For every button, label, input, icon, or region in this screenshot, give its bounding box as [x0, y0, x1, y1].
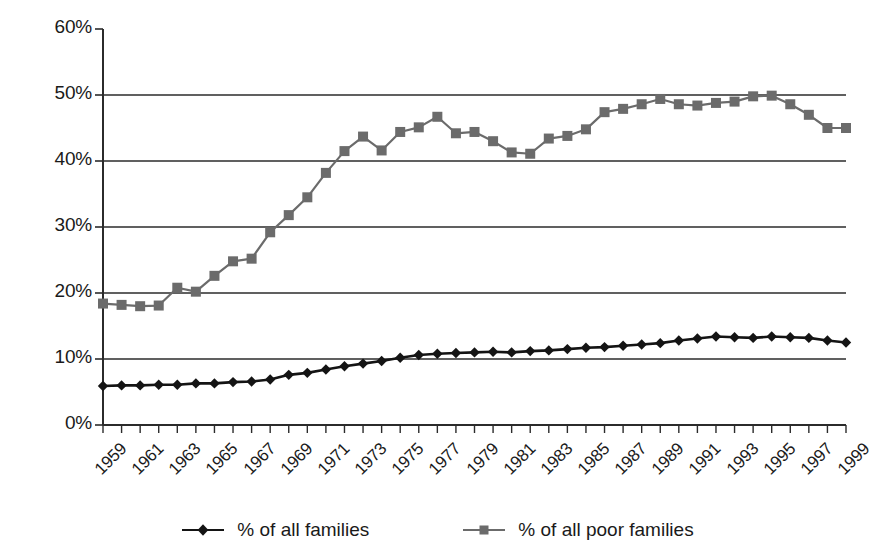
data-point-diamond: [785, 332, 795, 342]
data-point-diamond: [841, 337, 851, 347]
data-point-diamond: [339, 361, 349, 371]
data-point-diamond: [358, 358, 368, 368]
data-point-diamond: [711, 331, 721, 341]
data-point-square: [562, 131, 572, 141]
data-point-square: [172, 283, 182, 293]
data-point-diamond: [729, 332, 739, 342]
data-point-square: [451, 128, 461, 138]
data-point-square: [98, 299, 108, 309]
data-point-diamond: [544, 345, 554, 355]
data-point-diamond: [246, 376, 256, 386]
data-point-square: [470, 127, 480, 137]
data-point-square: [618, 104, 628, 114]
y-axis-tick-label: 10%: [14, 346, 92, 368]
data-point-diamond: [767, 331, 777, 341]
data-point-square: [414, 122, 424, 132]
data-point-diamond: [525, 346, 535, 356]
data-point-diamond: [284, 370, 294, 380]
line-chart: [0, 0, 874, 505]
data-point-diamond: [636, 339, 646, 349]
data-point-square: [488, 136, 498, 146]
data-point-square: [507, 147, 517, 157]
data-point-square: [302, 192, 312, 202]
data-point-square: [209, 271, 219, 281]
data-point-square: [544, 134, 554, 144]
data-point-square: [692, 101, 702, 111]
data-point-square: [785, 99, 795, 109]
y-axis-tick-label: 30%: [14, 214, 92, 236]
data-point-diamond: [265, 374, 275, 384]
data-point-square: [822, 123, 832, 133]
data-point-diamond: [822, 335, 832, 345]
data-point-diamond: [451, 348, 461, 358]
data-point-diamond: [748, 333, 758, 343]
data-point-diamond: [674, 335, 684, 345]
data-point-square: [674, 99, 684, 109]
data-point-diamond: [581, 343, 591, 353]
data-point-diamond: [599, 342, 609, 352]
y-axis-tick-label: 50%: [14, 82, 92, 104]
data-point-square: [581, 124, 591, 134]
data-point-diamond: [172, 380, 182, 390]
data-point-square: [339, 146, 349, 156]
data-point-square: [117, 300, 127, 310]
data-point-diamond: [321, 364, 331, 374]
y-axis-tick-label: 20%: [14, 280, 92, 302]
series-all-poor-families: [98, 91, 851, 312]
data-point-diamond: [116, 380, 126, 390]
data-point-square: [321, 168, 331, 178]
data-point-square: [600, 107, 610, 117]
data-point-square: [191, 287, 201, 297]
data-point-diamond: [209, 378, 219, 388]
data-point-square: [358, 132, 368, 142]
data-point-diamond: [488, 347, 498, 357]
data-point-square: [395, 127, 405, 137]
y-axis-tick-label: 60%: [14, 16, 92, 38]
y-axis-tick-label: 40%: [14, 148, 92, 170]
data-point-diamond: [804, 333, 814, 343]
data-point-diamond: [562, 344, 572, 354]
data-point-diamond: [395, 352, 405, 362]
data-point-diamond: [302, 368, 312, 378]
data-point-square: [637, 99, 647, 109]
y-axis-tick-label: 0%: [14, 412, 92, 434]
data-point-square: [228, 256, 238, 266]
data-point-diamond: [432, 349, 442, 359]
data-point-diamond: [692, 333, 702, 343]
data-point-square: [804, 110, 814, 120]
data-point-diamond: [135, 380, 145, 390]
data-point-square: [135, 301, 145, 311]
data-point-square: [377, 145, 387, 155]
data-point-square: [284, 210, 294, 220]
data-point-diamond: [506, 347, 516, 357]
data-point-square: [711, 98, 721, 108]
data-point-square: [730, 97, 740, 107]
data-point-diamond: [98, 381, 108, 391]
data-point-diamond: [655, 338, 665, 348]
data-point-diamond: [376, 356, 386, 366]
data-point-diamond: [618, 341, 628, 351]
data-point-square: [767, 91, 777, 101]
data-point-square: [841, 123, 851, 133]
data-point-square: [655, 94, 665, 104]
data-point-square: [432, 112, 442, 122]
series-all-families: [98, 331, 851, 391]
data-point-square: [265, 227, 275, 237]
chart-container: % of all families % of all poor families…: [0, 0, 874, 557]
data-point-square: [247, 254, 257, 264]
data-point-diamond: [228, 377, 238, 387]
data-point-square: [154, 301, 164, 311]
data-point-square: [748, 91, 758, 101]
data-point-square: [525, 149, 535, 159]
data-point-diamond: [191, 378, 201, 388]
data-point-diamond: [469, 347, 479, 357]
data-point-diamond: [154, 380, 164, 390]
